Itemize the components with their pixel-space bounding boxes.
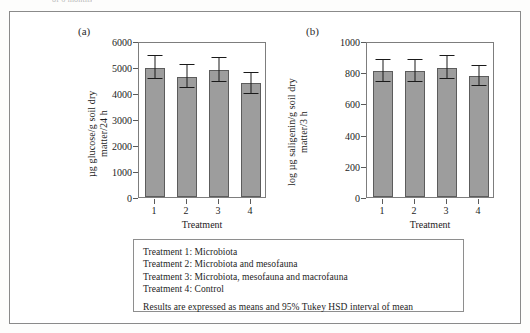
error-bar-line [186, 65, 187, 88]
y-tick-label: 400 [345, 130, 360, 141]
y-tick-label: 800 [345, 68, 360, 79]
error-bar-line [250, 73, 251, 94]
x-tick-label: 3 [216, 205, 221, 216]
y-tick-label: 1000 [340, 37, 360, 48]
bar-group [241, 43, 261, 197]
bar-group [177, 43, 197, 197]
error-bar-cap-upper [211, 57, 226, 58]
bar-group [469, 43, 489, 197]
bar [469, 76, 489, 197]
bar-group [437, 43, 457, 197]
y-tick-label: 4000 [112, 89, 132, 100]
error-bar-cap-upper [407, 59, 422, 60]
error-bar-cap-lower [147, 78, 162, 79]
error-bar-cap-lower [471, 85, 486, 86]
panel-b-letter: (b) [306, 25, 319, 37]
x-tick-label: 1 [152, 205, 157, 216]
bar-group [145, 43, 165, 197]
error-bar-cap-lower [375, 81, 390, 82]
error-bar-cap-lower [407, 81, 422, 82]
y-tick-mark [361, 167, 366, 168]
chart-panel-b: (b) log µg saligenin/g soil dry matter/3… [284, 25, 512, 220]
error-bar-cap-lower [439, 78, 454, 79]
error-bar-cap-upper [439, 55, 454, 56]
panel-a-plot-area [138, 42, 266, 198]
y-tick-label: 1000 [112, 167, 132, 178]
x-tick-mark [446, 199, 447, 204]
x-tick-mark [478, 199, 479, 204]
bar-group [405, 43, 425, 197]
error-bar-cap-lower [211, 81, 226, 82]
bar-group [373, 43, 393, 197]
legend-box: Treatment 1: Microbiota Treatment 2: Mic… [133, 239, 464, 312]
y-tick-mark [361, 42, 366, 43]
y-tick-mark [133, 42, 138, 43]
y-tick-mark [133, 94, 138, 95]
y-tick-mark [361, 198, 366, 199]
x-tick-mark [218, 199, 219, 204]
panel-b-bars [367, 43, 493, 197]
x-tick-label: 2 [412, 205, 417, 216]
error-bar-line [154, 56, 155, 79]
legend-item-treatment-3: Treatment 3: Microbiota, mesofauna and m… [143, 271, 454, 283]
panel-a-y-axis-label: µg glucose/g soil dry matter/24 h [86, 60, 110, 208]
y-tick-label: 200 [345, 161, 360, 172]
panel-a-x-axis-label: Treatment [138, 219, 266, 230]
y-tick-mark [361, 73, 366, 74]
bar [437, 68, 457, 197]
figure-frame: (a) µg glucose/g soil dry matter/24 h 01… [9, 11, 521, 324]
y-tick-mark [133, 146, 138, 147]
panel-a-letter: (a) [78, 25, 90, 37]
y-tick-label: 0 [127, 193, 132, 204]
y-tick-label: 6000 [112, 37, 132, 48]
legend-item-treatment-1: Treatment 1: Microbiota [143, 246, 454, 258]
y-tick-mark [361, 104, 366, 105]
y-tick-label: 2000 [112, 141, 132, 152]
bar-group [209, 43, 229, 197]
x-tick-mark [382, 199, 383, 204]
bar [177, 77, 197, 197]
y-tick-mark [361, 136, 366, 137]
x-tick-label: 1 [380, 205, 385, 216]
bar [145, 68, 165, 197]
y-tick-mark [133, 198, 138, 199]
error-bar-line [446, 56, 447, 79]
error-bar-line [218, 58, 219, 82]
error-bar-line [382, 60, 383, 82]
x-tick-label: 2 [184, 205, 189, 216]
legend-item-treatment-4: Treatment 4: Control [143, 283, 454, 295]
panel-b-y-ticks: 02004006008001000 [366, 42, 367, 198]
error-bar-cap-upper [243, 72, 258, 73]
bar [405, 71, 425, 197]
x-tick-label: 4 [476, 205, 481, 216]
legend-statistics-note: Results are expressed as means and 95% T… [143, 301, 454, 313]
error-bar-cap-upper [375, 59, 390, 60]
bar [241, 83, 261, 197]
error-bar-cap-lower [243, 93, 258, 94]
panel-b-x-axis-label: Treatment [366, 219, 494, 230]
y-tick-mark [133, 68, 138, 69]
bar [209, 70, 229, 197]
error-bar-cap-upper [471, 65, 486, 66]
error-bar-cap-lower [179, 87, 194, 88]
y-tick-label: 5000 [112, 63, 132, 74]
x-tick-mark [250, 199, 251, 204]
error-bar-line [414, 60, 415, 82]
error-bar-cap-upper [147, 55, 162, 56]
x-tick-mark [414, 199, 415, 204]
x-tick-label: 3 [444, 205, 449, 216]
panel-b-plot-area [366, 42, 494, 198]
panel-a-y-ticks: 0100020003000400050006000 [138, 42, 139, 198]
caption-remnant-text: of 6 months [52, 0, 92, 3]
y-tick-label: 3000 [112, 115, 132, 126]
panel-a-bars [139, 43, 265, 197]
panel-b-y-axis-label: log µg saligenin/g soil dry matter/3 h [286, 55, 310, 210]
bar [373, 71, 393, 197]
x-tick-label: 4 [248, 205, 253, 216]
legend-item-treatment-2: Treatment 2: Microbiota and mesofauna [143, 258, 454, 270]
chart-panel-a: (a) µg glucose/g soil dry matter/24 h 01… [24, 25, 272, 220]
error-bar-line [478, 66, 479, 86]
y-tick-label: 600 [345, 99, 360, 110]
y-tick-mark [133, 172, 138, 173]
error-bar-cap-upper [179, 64, 194, 65]
